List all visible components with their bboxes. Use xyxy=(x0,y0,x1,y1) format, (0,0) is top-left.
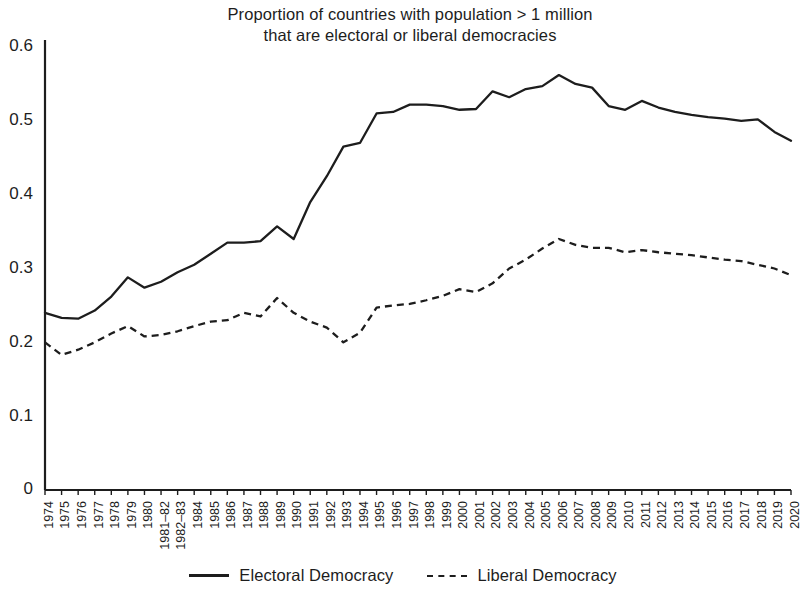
x-axis-tick-label: 1975 xyxy=(58,501,72,529)
x-axis-tick-label: 1986 xyxy=(224,501,238,529)
x-axis-tick-label: 2017 xyxy=(738,501,752,529)
y-axis-tick-label: 0.1 xyxy=(9,406,33,425)
x-axis-tick-label: 2016 xyxy=(721,501,735,529)
x-axis-tick-label: 1987 xyxy=(241,501,255,529)
y-axis-tick-label: 0.4 xyxy=(9,184,33,203)
chart-title-line-1: Proportion of countries with population … xyxy=(227,5,592,23)
x-axis-tick-label: 2003 xyxy=(506,501,520,529)
x-axis-tick-label: 2008 xyxy=(589,501,603,529)
legend-entry-liberal-democracy: Liberal Democracy xyxy=(427,566,616,585)
x-axis-tick-label: 1982–83 xyxy=(174,501,188,550)
x-axis-tick-label: 2010 xyxy=(622,501,636,529)
x-axis-tick-label: 1995 xyxy=(373,501,387,529)
x-axis-tick-label: 1976 xyxy=(75,501,89,529)
x-axis-tick-label: 1997 xyxy=(407,501,421,529)
x-axis: 19741975197619771978197919801981–821982–… xyxy=(42,490,802,550)
y-axis-tick-label: 0.2 xyxy=(9,332,33,351)
y-axis: 00.10.20.30.40.50.6 xyxy=(9,36,45,498)
x-axis-tick-label: 1988 xyxy=(257,501,271,529)
x-axis-tick-label: 2002 xyxy=(489,501,503,529)
x-axis-tick-label: 1994 xyxy=(357,501,371,529)
legend-entry-electoral-democracy: Electoral Democracy xyxy=(189,566,393,585)
x-axis-tick-label: 1985 xyxy=(208,501,222,529)
chart-figure: Proportion of countries with population … xyxy=(0,0,806,599)
y-axis-tick-label: 0 xyxy=(24,479,33,498)
x-axis-tick-label: 1979 xyxy=(125,501,139,529)
x-axis-tick-label: 1990 xyxy=(290,501,304,529)
x-axis-tick-label: 2004 xyxy=(523,501,537,529)
series-line-liberal-democracy xyxy=(45,239,791,355)
x-axis-tick-label: 2019 xyxy=(771,501,785,529)
chart-legend: Electoral Democracy Liberal Democracy xyxy=(0,566,806,585)
series-line-electoral-democracy xyxy=(45,75,791,319)
x-axis-tick-label: 1974 xyxy=(42,501,56,529)
x-axis-tick-label: 2015 xyxy=(705,501,719,529)
x-axis-tick-label: 1998 xyxy=(423,501,437,529)
x-axis-tick-label: 2006 xyxy=(556,501,570,529)
x-axis-tick-label: 1992 xyxy=(324,501,338,529)
x-axis-tick-label: 1978 xyxy=(108,501,122,529)
y-axis-tick-label: 0.3 xyxy=(9,258,33,277)
x-axis-tick-label: 2012 xyxy=(655,501,669,529)
x-axis-tick-label: 1989 xyxy=(274,501,288,529)
x-axis-tick-label: 2018 xyxy=(755,501,769,529)
legend-label-electoral-democracy: Electoral Democracy xyxy=(239,566,393,585)
x-axis-tick-label: 2001 xyxy=(473,501,487,529)
x-axis-tick-label: 1999 xyxy=(440,501,454,529)
x-axis-tick-label: 1981–82 xyxy=(158,501,172,550)
x-axis-tick-label: 2020 xyxy=(788,501,802,529)
line-chart-plot: 00.10.20.30.40.50.6 19741975197619771978… xyxy=(0,0,806,565)
x-axis-tick-label: 2011 xyxy=(639,501,653,528)
x-axis-tick-label: 1980 xyxy=(141,501,155,529)
x-axis-tick-label: 1984 xyxy=(191,501,205,529)
x-axis-tick-label: 1991 xyxy=(307,501,321,529)
x-axis-tick-label: 2007 xyxy=(572,501,586,529)
x-axis-tick-label: 2013 xyxy=(672,501,686,529)
x-axis-tick-label: 1993 xyxy=(340,501,354,529)
chart-title-line-2: that are electoral or liberal democracie… xyxy=(160,25,660,46)
legend-swatch-solid-icon xyxy=(189,574,229,577)
y-axis-tick-label: 0.5 xyxy=(9,110,33,129)
x-axis-tick-label: 2000 xyxy=(456,501,470,529)
x-axis-tick-label: 1977 xyxy=(92,501,106,529)
x-axis-tick-label: 2009 xyxy=(605,501,619,529)
legend-swatch-dashed-icon xyxy=(427,575,467,577)
y-axis-tick-label: 0.6 xyxy=(9,36,33,55)
x-axis-tick-label: 2014 xyxy=(688,501,702,529)
x-axis-tick-label: 2005 xyxy=(539,501,553,529)
x-axis-tick-label: 1996 xyxy=(390,501,404,529)
chart-title: Proportion of countries with population … xyxy=(160,4,660,46)
legend-label-liberal-democracy: Liberal Democracy xyxy=(477,566,616,585)
